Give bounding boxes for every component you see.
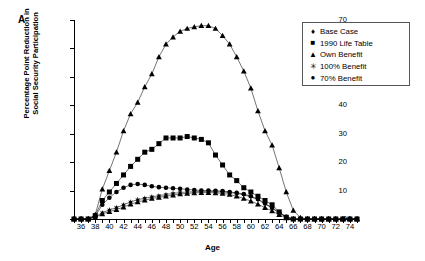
x-tick-label: 74 (342, 222, 358, 231)
triangle-marker (121, 128, 127, 133)
triangle-marker (241, 68, 247, 73)
triangle-marker (135, 100, 141, 105)
circle-marker (157, 185, 162, 190)
y-axis-title-line1: Percentage Point Reduction in (22, 8, 31, 118)
square-marker (192, 135, 197, 140)
triangle-marker (276, 165, 282, 170)
square-marker: ■ (307, 39, 319, 47)
square-marker (142, 150, 147, 155)
circle-marker (114, 190, 119, 195)
legend-item-label: Own Benefit (319, 50, 362, 59)
triangle-marker (283, 189, 289, 194)
triangle-marker (262, 128, 268, 133)
triangle-marker (269, 142, 275, 147)
triangle-marker (114, 149, 120, 154)
circle-marker (142, 183, 147, 188)
triangle-marker (99, 186, 105, 191)
square-marker (100, 198, 105, 203)
legend-item-label: 70% Benefit (319, 74, 362, 83)
triangle-marker (128, 201, 134, 206)
star-marker: ✳ (307, 63, 319, 71)
triangle-marker (248, 198, 254, 203)
triangle-marker (106, 168, 112, 173)
triangle-marker (248, 85, 254, 90)
legend-item-label: 100% Benefit (319, 62, 366, 71)
legend-item-0[interactable]: ♦Base Case (307, 26, 405, 38)
square-marker (135, 157, 140, 162)
square-marker (149, 147, 154, 152)
diamond-marker: ♦ (307, 28, 319, 36)
triangle-marker (234, 54, 240, 59)
legend-item-3[interactable]: ✳100% Benefit (307, 61, 405, 73)
square-marker (234, 178, 239, 183)
square-marker (107, 189, 112, 194)
square-marker (156, 141, 161, 146)
square-marker (128, 164, 133, 169)
circle-marker (107, 195, 112, 200)
square-marker (227, 172, 232, 177)
square-marker (121, 172, 126, 177)
series-70-benefit (72, 182, 360, 222)
square-marker (114, 181, 119, 186)
triangle-marker (290, 208, 296, 213)
legend-item-label: Base Case (319, 27, 358, 36)
triangle-marker (255, 201, 261, 206)
legend: ♦Base Case■1990 Life Table▲Own Benefit✳1… (302, 22, 410, 86)
x-axis-title: Age (0, 243, 425, 252)
circle-marker (171, 186, 176, 191)
triangle-marker: ▲ (307, 51, 319, 59)
square-marker (171, 135, 176, 140)
circle-marker (164, 185, 169, 190)
triangle-marker (177, 28, 183, 33)
triangle-marker (128, 111, 134, 116)
square-marker (241, 185, 246, 190)
square-marker (220, 162, 225, 167)
circle-marker (100, 202, 105, 207)
triangle-marker (170, 34, 176, 39)
triangle-marker (255, 108, 261, 113)
square-marker (163, 135, 168, 140)
circle-marker (135, 182, 140, 187)
circle-marker (150, 184, 155, 189)
triangle-marker (156, 54, 162, 59)
legend-item-4[interactable]: ●70% Benefit (307, 72, 405, 84)
triangle-marker (149, 71, 155, 76)
y-axis-title: Percentage Point Reduction in Social Sec… (22, 0, 41, 143)
triangle-marker (142, 84, 148, 89)
y-axis-title-line2: Social Security Participation (31, 12, 40, 115)
triangle-marker (198, 23, 204, 28)
triangle-marker (262, 205, 268, 210)
triangle-marker (213, 26, 219, 31)
legend-item-2[interactable]: ▲Own Benefit (307, 49, 405, 61)
circle-marker (128, 183, 133, 188)
triangle-marker (121, 204, 127, 209)
square-marker (206, 140, 211, 145)
circle-marker: ● (307, 74, 319, 82)
legend-item-1[interactable]: ■1990 Life Table (307, 38, 405, 50)
square-marker (185, 134, 190, 139)
square-marker (213, 153, 218, 158)
square-marker (248, 189, 253, 194)
legend-item-label: 1990 Life Table (319, 39, 373, 48)
figure-panel-a: A Percentage Point Reduction in Social S… (0, 0, 425, 261)
triangle-marker (114, 207, 120, 212)
triangle-marker (206, 23, 212, 28)
square-marker (199, 137, 204, 142)
triangle-marker (241, 196, 247, 201)
circle-marker (121, 185, 126, 190)
square-marker (178, 135, 183, 140)
